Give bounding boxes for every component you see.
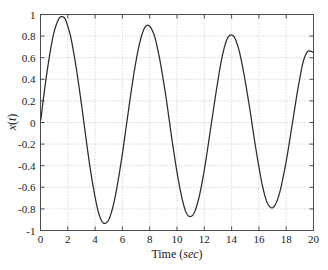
y-axis-title: x(t) bbox=[5, 114, 19, 132]
y-tick-label: -1 bbox=[26, 225, 35, 237]
y-axis-title-paren-close: ) bbox=[5, 114, 19, 118]
chart-background bbox=[0, 0, 328, 270]
y-tick-label: 0.2 bbox=[22, 95, 36, 107]
x-axis-title-paren: ) bbox=[199, 247, 203, 261]
y-tick-label: -0.6 bbox=[18, 181, 36, 193]
y-tick-label: 0.6 bbox=[22, 52, 36, 64]
x-tick-label: 20 bbox=[308, 233, 320, 245]
x-axis-title-unit: sec bbox=[183, 247, 199, 261]
x-tick-label: 18 bbox=[281, 233, 293, 245]
y-tick-label: 1 bbox=[30, 9, 36, 21]
x-axis-title-text: Time ( bbox=[151, 247, 183, 261]
y-tick-label: 0 bbox=[30, 117, 36, 129]
chart-plot-area: 02468101214161820 -1-0.8-0.6-0.4-0.200.2… bbox=[0, 0, 328, 270]
x-tick-label: 6 bbox=[120, 233, 126, 245]
x-tick-label: 12 bbox=[199, 233, 210, 245]
x-tick-label: 2 bbox=[65, 233, 71, 245]
x-tick-label: 0 bbox=[38, 233, 44, 245]
x-tick-label: 4 bbox=[92, 233, 98, 245]
x-tick-label: 14 bbox=[226, 233, 238, 245]
x-tick-label: 16 bbox=[253, 233, 265, 245]
x-tick-label: 8 bbox=[147, 233, 153, 245]
y-tick-label: -0.2 bbox=[18, 138, 35, 150]
y-tick-label: 0.8 bbox=[22, 30, 36, 42]
chart-figure: 02468101214161820 -1-0.8-0.6-0.4-0.200.2… bbox=[0, 0, 328, 270]
x-tick-label: 10 bbox=[172, 233, 184, 245]
y-tick-label: -0.4 bbox=[18, 160, 36, 172]
x-axis-title: Time (sec) bbox=[151, 247, 202, 261]
y-tick-label: 0.4 bbox=[22, 73, 36, 85]
y-tick-label: -0.8 bbox=[18, 203, 36, 215]
